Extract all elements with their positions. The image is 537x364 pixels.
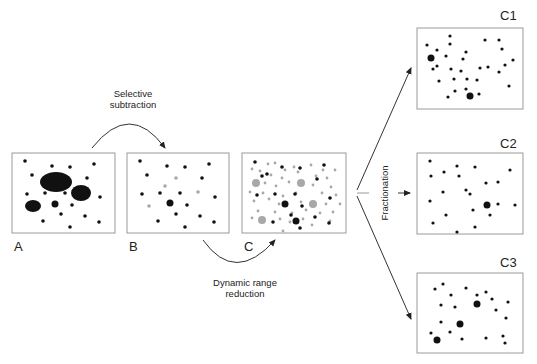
panel-c-label: C bbox=[244, 239, 253, 254]
selective-subtraction-arrow bbox=[92, 124, 165, 148]
panel-a bbox=[12, 153, 115, 233]
dynamic-range-reduction-step: Dynamic range reduction bbox=[203, 240, 277, 299]
dynamic-range-label-2: reduction bbox=[225, 288, 264, 299]
selective-subtraction-step: Selective subtraction bbox=[92, 88, 165, 148]
panel-c3-label: C3 bbox=[500, 255, 517, 270]
panel-c1-label: C1 bbox=[500, 8, 517, 23]
dynamic-range-label-1: Dynamic range bbox=[213, 277, 277, 288]
fractionation-label: Fractionation bbox=[379, 166, 390, 221]
panel-c1 bbox=[417, 28, 523, 109]
panel-c bbox=[242, 153, 346, 233]
panel-c2-label: C2 bbox=[500, 136, 517, 151]
panel-a-label: A bbox=[14, 239, 23, 254]
workflow-diagram: A B bbox=[0, 0, 537, 364]
panel-c2 bbox=[417, 153, 523, 234]
panel-c3 bbox=[417, 273, 523, 353]
selective-subtraction-label-2: subtraction bbox=[110, 99, 156, 110]
fractionation-step: Fractionation bbox=[357, 68, 411, 319]
selective-subtraction-label-1: Selective bbox=[114, 88, 153, 99]
panel-b bbox=[127, 153, 229, 233]
dynamic-range-reduction-arrow bbox=[203, 240, 275, 263]
panel-b-label: B bbox=[129, 239, 138, 254]
